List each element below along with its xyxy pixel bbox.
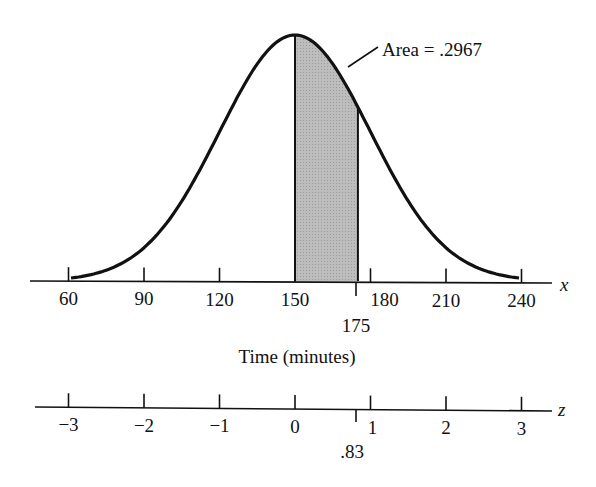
- annotation-leader-line: [348, 47, 378, 67]
- z-tick-label: −1: [209, 415, 229, 436]
- z-tick-label: 0: [290, 416, 300, 437]
- z-tick-label: 1: [368, 417, 378, 438]
- x175-label: 175: [342, 315, 371, 336]
- x-axis-line: [30, 281, 552, 283]
- z-axis-line: [35, 407, 552, 411]
- z-tick-label: 2: [441, 417, 451, 438]
- x-tick-label: 210: [432, 290, 461, 311]
- x-tick-label: 240: [507, 290, 536, 311]
- z-axis-variable: z: [557, 399, 566, 420]
- normal-distribution-chart: Area = .2967 6090120150180210240 x 175 T…: [0, 0, 596, 487]
- x-tick-label: 60: [59, 288, 78, 309]
- z-tick-label: −3: [58, 414, 78, 435]
- z-tick-label: −2: [134, 415, 154, 436]
- x-axis-title: Time (minutes): [239, 346, 356, 368]
- x-tick-label: 90: [135, 288, 154, 309]
- x-axis-variable: x: [559, 274, 569, 295]
- x-tick-label: 150: [281, 289, 310, 310]
- shaded-area-region: [295, 35, 358, 281]
- z-axis-ticks: −3−2−10123: [58, 393, 526, 439]
- x-tick-label: 120: [205, 289, 234, 310]
- z083-label: .83: [340, 441, 364, 462]
- z-tick-label: 3: [517, 418, 527, 439]
- x-tick-label: 180: [370, 289, 399, 310]
- area-annotation: Area = .2967: [382, 39, 482, 60]
